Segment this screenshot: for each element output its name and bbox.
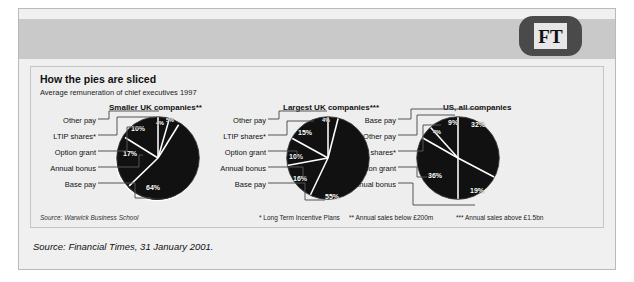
bottom-source-line: Source: Financial Times, 31 January 2001… [33, 241, 214, 252]
chart-panel: How the pies are sliced Average remunera… [30, 66, 604, 228]
ft-logo: FT [519, 16, 582, 56]
footnote-largest-uk: *** Annual sales above £1.5bn [456, 214, 543, 221]
warwick-source-note: Source: Warwick Business School [40, 214, 139, 221]
footnote-ltip: * Long Term Incentive Plans [259, 214, 340, 221]
screenshot-root: FT How the pies are sliced Average remun… [0, 0, 634, 282]
ft-logo-text: FT [534, 23, 567, 49]
footnote-smaller-uk: ** Annual sales below £200m [349, 214, 433, 221]
pie3-leader-lines [31, 67, 605, 229]
